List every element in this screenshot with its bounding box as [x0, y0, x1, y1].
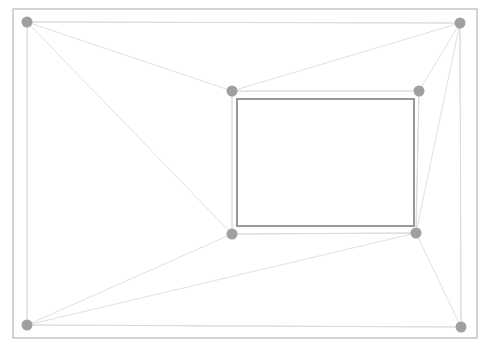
edge-tl-to-inner-bl	[27, 22, 232, 234]
node-corner-bottom-right[interactable]	[456, 322, 467, 333]
edge-bl-to-inner-br	[27, 233, 416, 325]
outer-quadrilateral	[27, 22, 461, 327]
mesh-canvas	[0, 0, 489, 350]
nodes-group	[22, 17, 467, 333]
node-corner-bottom-left[interactable]	[22, 320, 33, 331]
inner-quadrilateral	[232, 91, 419, 234]
quads-group	[27, 22, 461, 327]
edge-br-to-inner-br	[416, 233, 461, 327]
edges-group	[27, 22, 461, 327]
edge-tr-to-inner-tl	[232, 23, 460, 91]
outer-page-border	[13, 9, 477, 338]
node-corner-top-right[interactable]	[455, 18, 466, 29]
mesh-overlay-svg	[0, 0, 489, 350]
edge-bl-to-inner-bl	[27, 234, 232, 325]
node-corner-top-left[interactable]	[22, 17, 33, 28]
edge-tl-to-inner-tl	[27, 22, 232, 91]
node-inner-bottom-right[interactable]	[411, 228, 422, 239]
inner-document-border	[237, 99, 414, 226]
edge-tr-to-inner-br	[416, 23, 460, 233]
node-inner-top-left[interactable]	[227, 86, 238, 97]
node-inner-bottom-left[interactable]	[227, 229, 238, 240]
node-inner-top-right[interactable]	[414, 86, 425, 97]
